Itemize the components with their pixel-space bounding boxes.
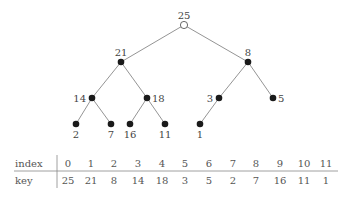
index-cell: 11 — [320, 158, 333, 169]
index-cell: 6 — [206, 158, 212, 169]
key-cell: 16 — [274, 175, 287, 186]
node-key-label: 18 — [152, 93, 165, 104]
tree-node: 7 — [108, 121, 115, 140]
node-key-label: 25 — [178, 10, 191, 21]
tree-node: 1 — [197, 121, 204, 140]
tree-node: 8 — [245, 47, 252, 65]
index-cell: 9 — [277, 158, 283, 169]
row-header-index: index — [15, 158, 43, 169]
tree-edge — [121, 25, 184, 62]
key-cell: 5 — [206, 175, 212, 186]
key-cell: 2 — [230, 175, 236, 186]
filled-node-icon — [108, 121, 115, 128]
tree-edge — [92, 98, 111, 124]
hollow-node-icon — [180, 21, 187, 28]
node-key-label: 7 — [108, 129, 114, 140]
index-cell: 0 — [65, 158, 71, 169]
tree-node: 16 — [124, 121, 137, 140]
key-cell: 3 — [182, 175, 188, 186]
node-key-label: 1 — [197, 129, 203, 140]
node-key-label: 2 — [73, 129, 79, 140]
tree-node: 3 — [207, 93, 223, 104]
tree-edge — [248, 62, 273, 98]
tree-node: 25 — [178, 10, 191, 29]
array-table: index key 025121283144185365728791610111… — [14, 155, 338, 188]
node-key-label: 11 — [159, 129, 172, 140]
key-cell: 25 — [62, 175, 75, 186]
index-cell: 10 — [298, 158, 311, 169]
node-key-label: 5 — [278, 93, 284, 104]
index-cell: 4 — [159, 158, 165, 169]
tree-edge — [130, 98, 147, 124]
index-cell: 1 — [88, 158, 94, 169]
index-cell: 3 — [135, 158, 141, 169]
tree-node: 18 — [144, 93, 165, 104]
key-cell: 8 — [111, 175, 117, 186]
filled-node-icon — [127, 121, 134, 128]
key-cell: 18 — [156, 175, 169, 186]
key-cell: 1 — [323, 175, 329, 186]
node-key-label: 21 — [115, 47, 128, 58]
heap-diagram: 252181418352716111 index key 02512128314… — [0, 0, 351, 197]
filled-node-icon — [144, 95, 151, 102]
index-cell: 7 — [230, 158, 236, 169]
tree-node: 21 — [115, 47, 128, 65]
table-cells: 02512128314418536572879161011111 — [62, 158, 333, 186]
tree-node: 11 — [159, 121, 172, 140]
tree-node: 5 — [270, 93, 285, 104]
tree-edge — [219, 62, 248, 98]
tree-node: 2 — [73, 121, 80, 140]
node-key-label: 8 — [245, 47, 251, 58]
node-key-label: 3 — [207, 93, 213, 104]
row-header-key: key — [15, 175, 33, 186]
filled-node-icon — [73, 121, 80, 128]
key-cell: 14 — [132, 175, 145, 186]
tree-edge — [92, 62, 121, 98]
key-cell: 11 — [298, 175, 311, 186]
node-key-label: 16 — [124, 129, 137, 140]
tree-edges — [76, 25, 273, 124]
tree-nodes: 252181418352716111 — [73, 10, 285, 140]
node-key-label: 14 — [73, 93, 86, 104]
tree-node: 14 — [73, 93, 95, 104]
key-cell: 21 — [85, 175, 98, 186]
filled-node-icon — [270, 95, 277, 102]
filled-node-icon — [245, 59, 252, 66]
tree-edge — [184, 25, 248, 62]
filled-node-icon — [118, 59, 125, 66]
filled-node-icon — [216, 95, 223, 102]
filled-node-icon — [197, 121, 204, 128]
key-cell: 7 — [253, 175, 259, 186]
filled-node-icon — [89, 95, 96, 102]
filled-node-icon — [162, 121, 169, 128]
tree-edge — [121, 62, 147, 98]
index-cell: 2 — [111, 158, 117, 169]
index-cell: 5 — [182, 158, 188, 169]
index-cell: 8 — [253, 158, 259, 169]
